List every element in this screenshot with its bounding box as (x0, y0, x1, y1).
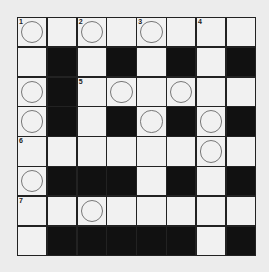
grid-cell[interactable] (197, 227, 225, 255)
circle-marker-icon (140, 110, 162, 132)
grid-cell[interactable] (107, 78, 135, 106)
grid-cell[interactable] (18, 227, 46, 255)
clue-number: 6 (19, 137, 23, 145)
circle-marker-icon (21, 21, 43, 43)
circle-marker-icon (110, 81, 132, 103)
block-cell (107, 167, 135, 195)
circle-marker-icon (200, 110, 222, 132)
grid-cell[interactable] (167, 137, 195, 165)
grid-cell[interactable] (167, 197, 195, 225)
clue-number: 4 (198, 18, 202, 26)
grid-cell[interactable] (137, 78, 165, 106)
block-cell (48, 167, 76, 195)
block-cell (227, 107, 255, 135)
grid-cell[interactable]: 7 (18, 197, 46, 225)
grid-cell[interactable] (167, 18, 195, 46)
grid-cell[interactable]: 2 (78, 18, 106, 46)
grid-cell[interactable]: 1 (18, 18, 46, 46)
circle-marker-icon (81, 21, 103, 43)
grid-cell[interactable] (227, 78, 255, 106)
grid-cell[interactable] (78, 48, 106, 76)
block-cell (227, 167, 255, 195)
clue-number: 3 (138, 18, 142, 26)
grid-cell[interactable] (107, 197, 135, 225)
grid-cell[interactable] (18, 167, 46, 195)
grid-cell[interactable] (137, 167, 165, 195)
grid-cell[interactable] (78, 137, 106, 165)
grid-cell[interactable] (197, 48, 225, 76)
grid-cell[interactable] (227, 137, 255, 165)
grid-cell[interactable] (78, 107, 106, 135)
clue-number: 2 (79, 18, 83, 26)
crossword-grid: 1234567 (17, 17, 256, 256)
clue-number: 7 (19, 197, 23, 205)
grid-cell[interactable] (18, 78, 46, 106)
circle-marker-icon (21, 170, 43, 192)
grid-cell[interactable] (227, 197, 255, 225)
grid-cell[interactable] (197, 197, 225, 225)
grid-cell[interactable]: 6 (18, 137, 46, 165)
grid-cell[interactable] (48, 18, 76, 46)
clue-number: 5 (79, 78, 83, 86)
block-cell (167, 227, 195, 255)
grid-cell[interactable] (107, 18, 135, 46)
clue-number: 1 (19, 18, 23, 26)
circle-marker-icon (140, 21, 162, 43)
circle-marker-icon (200, 140, 222, 162)
block-cell (107, 227, 135, 255)
circle-marker-icon (81, 200, 103, 222)
block-cell (48, 227, 76, 255)
block-cell (48, 48, 76, 76)
block-cell (78, 167, 106, 195)
grid-cell[interactable]: 4 (197, 18, 225, 46)
grid-cell[interactable] (137, 197, 165, 225)
block-cell (107, 107, 135, 135)
block-cell (227, 227, 255, 255)
grid-cell[interactable] (107, 137, 135, 165)
grid-cell[interactable] (137, 48, 165, 76)
grid-cell[interactable] (227, 18, 255, 46)
block-cell (227, 48, 255, 76)
circle-marker-icon (21, 81, 43, 103)
circle-marker-icon (170, 81, 192, 103)
block-cell (107, 48, 135, 76)
grid-cell[interactable] (167, 78, 195, 106)
grid-cell[interactable] (18, 107, 46, 135)
block-cell (137, 227, 165, 255)
block-cell (167, 48, 195, 76)
grid-cell[interactable] (197, 78, 225, 106)
grid-cell[interactable] (197, 107, 225, 135)
grid-cell[interactable]: 5 (78, 78, 106, 106)
grid-cell[interactable] (78, 197, 106, 225)
grid-cell[interactable] (197, 137, 225, 165)
grid-cell[interactable] (197, 167, 225, 195)
grid-cell[interactable] (48, 137, 76, 165)
block-cell (78, 227, 106, 255)
block-cell (48, 107, 76, 135)
circle-marker-icon (21, 110, 43, 132)
block-cell (167, 107, 195, 135)
grid-cell[interactable] (48, 197, 76, 225)
grid-cell[interactable] (18, 48, 46, 76)
grid-cell[interactable] (137, 137, 165, 165)
grid-cell[interactable]: 3 (137, 18, 165, 46)
block-cell (48, 78, 76, 106)
grid-cell[interactable] (137, 107, 165, 135)
block-cell (167, 167, 195, 195)
